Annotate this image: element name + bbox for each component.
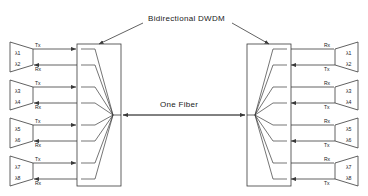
- right-terminal-3-lambda-bottom: λ6: [346, 137, 351, 143]
- left-terminal-4-lambda-bottom: λ8: [15, 175, 20, 181]
- left-terminal-3: [10, 118, 33, 148]
- left-terminal-3-lambda-bottom: λ6: [15, 137, 20, 143]
- left-terminal-1-port-bottom: Rx: [35, 66, 41, 72]
- left-terminal-2: [10, 80, 33, 110]
- left-terminal-1-lambda-top: λ1: [15, 50, 20, 56]
- right-terminal-1-port-top: Rx: [324, 42, 330, 48]
- left-terminal-1-lambda-bottom: λ2: [15, 61, 20, 67]
- left-terminal-4-lambda-top: λ7: [15, 164, 20, 170]
- left-terminal-3-port-bottom: Rx: [35, 142, 41, 148]
- right-internal-fan: [255, 49, 287, 179]
- left-terminal-2-port-top: Tx: [35, 80, 41, 86]
- diagram-title: Bidirectional DWDM: [148, 14, 225, 23]
- right-terminal-4-lambda-bottom: λ8: [346, 175, 351, 181]
- left-terminal-2-port-bottom: Rx: [35, 104, 41, 110]
- title-leader-right: [232, 23, 269, 44]
- right-terminal-4-port-top: Rx: [324, 156, 330, 162]
- right-terminal-1-lambda-bottom: λ2: [346, 61, 351, 67]
- left-terminal-4-port-bottom: Rx: [35, 180, 41, 186]
- right-terminal-2-lambda-top: λ3: [346, 88, 351, 94]
- right-terminal-3: [335, 118, 358, 148]
- right-terminal-2-lambda-bottom: λ4: [346, 99, 351, 105]
- left-terminal-2-lambda-top: λ3: [15, 88, 20, 94]
- left-terminal-3-lambda-top: λ5: [15, 126, 20, 132]
- right-terminal-1-lambda-top: λ1: [346, 50, 351, 56]
- right-terminal-3-port-bottom: Tx: [324, 142, 330, 148]
- left-terminal-3-port-top: Tx: [35, 118, 41, 124]
- right-terminal-1-port-bottom: Tx: [324, 66, 330, 72]
- left-internal-fan: [81, 49, 113, 179]
- title-leader-left: [99, 23, 143, 44]
- right-terminal-1: [335, 42, 358, 72]
- right-terminal-2-port-bottom: Tx: [324, 104, 330, 110]
- right-terminal-4-lambda-top: λ7: [346, 164, 351, 170]
- dwdm-diagram-canvas: Bidirectional DWDM One Fiber λ1 λ2 λ3 λ4…: [0, 0, 368, 196]
- right-terminal-2: [335, 80, 358, 110]
- diagram-vector-layer: [0, 0, 368, 196]
- left-terminal-1: [10, 42, 33, 72]
- right-terminal-3-lambda-top: λ5: [346, 126, 351, 132]
- right-terminal-4: [335, 156, 358, 186]
- right-terminal-2-port-top: Rx: [324, 80, 330, 86]
- left-terminal-4: [10, 156, 33, 186]
- left-terminal-1-port-top: Tx: [35, 42, 41, 48]
- one-fiber-label: One Fiber: [160, 100, 198, 109]
- left-terminal-4-port-top: Tx: [35, 156, 41, 162]
- left-terminal-2-lambda-bottom: λ4: [15, 99, 20, 105]
- right-terminal-3-port-top: Rx: [324, 118, 330, 124]
- right-terminal-4-port-bottom: Tx: [324, 180, 330, 186]
